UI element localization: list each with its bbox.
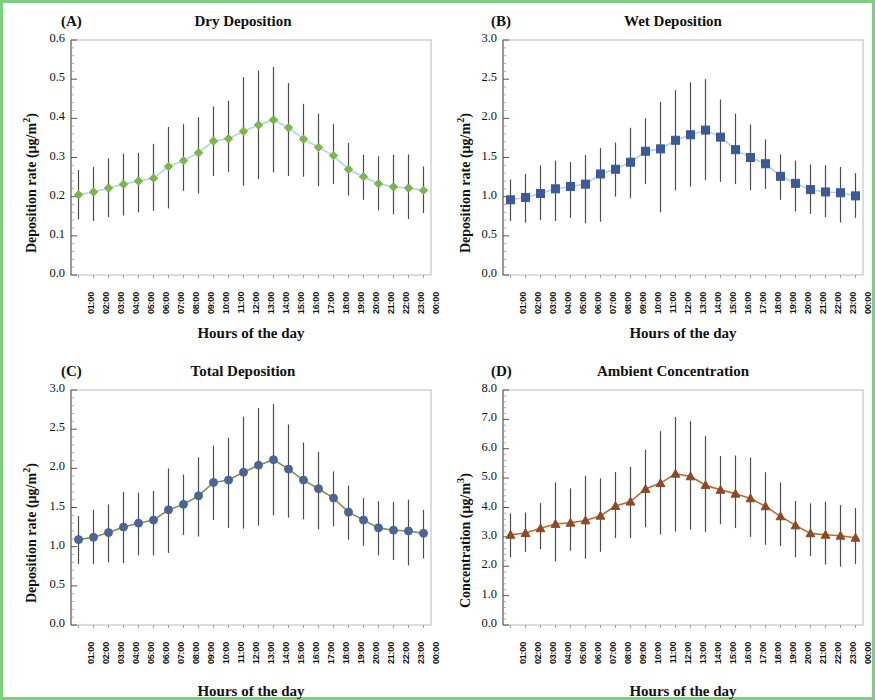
data-point-marker — [822, 188, 830, 196]
x-tick-label: 13:00 — [266, 642, 276, 664]
x-tick-label: 03:00 — [116, 642, 126, 664]
y-tick-label: 0.5 — [29, 577, 65, 592]
x-tick-label: 00:00 — [863, 642, 873, 664]
y-tick-label: 0.0 — [29, 616, 65, 631]
x-tick-label: 01:00 — [518, 292, 528, 314]
data-point-marker — [792, 179, 800, 187]
data-point-marker — [300, 476, 308, 484]
x-tick-label: 16:00 — [311, 292, 321, 314]
x-tick-label: 20:00 — [371, 292, 381, 314]
x-tick-label: 08:00 — [191, 642, 201, 664]
x-tick-label: 14:00 — [281, 642, 291, 664]
x-tick-label: 21:00 — [818, 292, 828, 314]
x-tick-label: 00:00 — [431, 292, 441, 314]
x-tick-label: 09:00 — [206, 292, 216, 314]
x-tick-label: 12:00 — [251, 292, 261, 314]
data-point-marker — [656, 479, 665, 487]
x-tick-label: 15:00 — [296, 642, 306, 664]
x-tick-label: 18:00 — [773, 292, 783, 314]
data-point-marker — [375, 524, 383, 532]
data-point-marker — [224, 135, 232, 143]
data-point-marker — [582, 180, 590, 188]
y-tick-label: 2.0 — [461, 557, 497, 572]
data-point-marker — [195, 492, 203, 500]
data-point-marker — [807, 186, 815, 194]
x-tick-label: 19:00 — [356, 292, 366, 314]
data-point-marker — [240, 468, 248, 476]
x-tick-label: 18:00 — [341, 292, 351, 314]
data-point-marker — [210, 478, 218, 486]
y-tick-label: 1.5 — [461, 149, 497, 164]
x-tick-label: 04:00 — [563, 292, 573, 314]
data-point-marker — [389, 183, 397, 191]
x-tick-label: 19:00 — [788, 292, 798, 314]
y-tick-label: 3.0 — [29, 381, 65, 396]
y-tick-label: 3.0 — [461, 528, 497, 543]
x-tick-label: 10:00 — [221, 292, 231, 314]
data-point-marker — [507, 196, 515, 204]
data-point-marker — [359, 172, 367, 180]
data-point-marker — [732, 146, 740, 154]
data-point-marker — [179, 156, 187, 164]
x-tick-label: 12:00 — [683, 642, 693, 664]
x-tick-label: 14:00 — [713, 292, 723, 314]
data-point-marker — [537, 190, 545, 198]
y-tick-label: 2.5 — [29, 420, 65, 435]
x-tick-label: 17:00 — [326, 642, 336, 664]
data-point-marker — [687, 131, 695, 139]
x-tick-label: 09:00 — [638, 292, 648, 314]
data-point-marker — [762, 160, 770, 168]
y-tick-label: 2.0 — [29, 459, 65, 474]
x-tick-label: 14:00 — [281, 292, 291, 314]
x-tick-label: 04:00 — [563, 642, 573, 664]
figure-container: (A) Dry Deposition Deposition rate (µg/m… — [0, 0, 875, 700]
data-point-marker — [642, 147, 650, 155]
x-tick-label: 03:00 — [116, 292, 126, 314]
y-tick-label: 0.3 — [29, 149, 65, 164]
x-tick-label: 22:00 — [833, 292, 843, 314]
x-tick-label: 05:00 — [578, 292, 588, 314]
x-tick-label: 09:00 — [206, 642, 216, 664]
x-tick-label: 06:00 — [593, 292, 603, 314]
x-tick-label: 06:00 — [593, 642, 603, 664]
x-tick-label: 03:00 — [548, 292, 558, 314]
data-point-marker — [777, 172, 785, 180]
x-tick-label: 02:00 — [101, 292, 111, 314]
x-tick-label: 22:00 — [401, 292, 411, 314]
data-point-marker — [345, 508, 353, 516]
y-tick-label: 0.2 — [29, 188, 65, 203]
data-point-marker — [89, 188, 97, 196]
data-point-marker — [150, 516, 158, 524]
y-tick-label: 1.0 — [29, 538, 65, 553]
data-point-marker — [837, 189, 845, 197]
data-point-marker — [90, 533, 98, 541]
x-tick-label: 14:00 — [713, 642, 723, 664]
x-tick-label: 05:00 — [146, 292, 156, 314]
data-point-marker — [596, 511, 605, 519]
x-tick-label: 01:00 — [86, 292, 96, 314]
data-point-marker — [180, 500, 188, 508]
data-point-marker — [74, 191, 82, 199]
x-tick-label: 23:00 — [848, 642, 858, 664]
data-point-marker — [405, 527, 413, 535]
data-point-marker — [776, 512, 785, 520]
x-tick-label: 19:00 — [788, 642, 798, 664]
data-point-marker — [360, 516, 368, 524]
x-tick-label: 02:00 — [533, 642, 543, 664]
x-tick-label: 17:00 — [326, 292, 336, 314]
y-tick-label: 6.0 — [461, 440, 497, 455]
x-tick-label: 18:00 — [341, 642, 351, 664]
data-point-marker — [254, 121, 262, 129]
x-tick-label: 23:00 — [848, 292, 858, 314]
data-point-marker — [285, 465, 293, 473]
y-tick-label: 0.1 — [29, 227, 65, 242]
x-tick-label: 23:00 — [416, 292, 426, 314]
data-point-marker — [314, 143, 322, 151]
x-tick-label: 06:00 — [161, 292, 171, 314]
x-tick-label: 00:00 — [863, 292, 873, 314]
x-tick-label: 01:00 — [518, 642, 528, 664]
data-point-marker — [852, 192, 860, 200]
x-tick-label: 07:00 — [608, 642, 618, 664]
x-tick-label: 19:00 — [356, 642, 366, 664]
y-tick-label: 0.0 — [29, 266, 65, 281]
